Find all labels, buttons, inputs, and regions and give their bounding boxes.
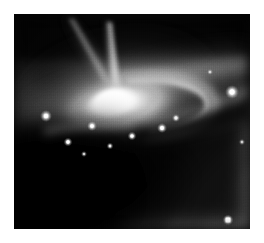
film-grain (14, 14, 250, 229)
galaxy-render (14, 14, 250, 229)
image-page (0, 0, 264, 243)
galaxy-image-plate (14, 14, 250, 229)
